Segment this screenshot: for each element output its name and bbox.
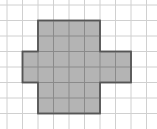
grid-diagram: [0, 0, 157, 129]
